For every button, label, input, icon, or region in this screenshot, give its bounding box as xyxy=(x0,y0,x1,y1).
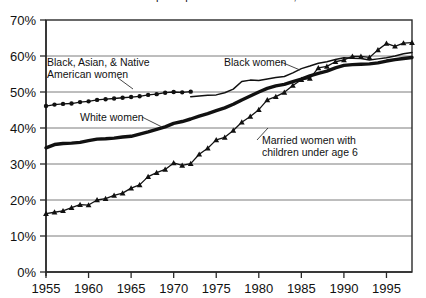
data-point xyxy=(146,93,150,97)
x-axis-tick-labels: 195519601965197019751980198519901995 xyxy=(32,281,401,296)
data-point xyxy=(86,99,90,103)
data-point xyxy=(129,95,133,99)
x-axis-label-1980: 1980 xyxy=(244,281,273,296)
y-axis-label-60%: 60% xyxy=(10,49,36,64)
chart-container: Labor force participation rates of women… xyxy=(0,0,426,298)
data-point xyxy=(78,100,82,104)
data-point xyxy=(171,90,175,94)
data-point xyxy=(61,102,65,106)
x-axis-label-1975: 1975 xyxy=(202,281,231,296)
annot-married-women-line1: Married women with xyxy=(262,134,356,146)
y-axis-label-0%: 0% xyxy=(17,265,36,280)
data-point xyxy=(52,102,56,106)
x-axis-label-1965: 1965 xyxy=(117,281,146,296)
data-point xyxy=(120,96,124,100)
data-point xyxy=(44,104,48,108)
data-point xyxy=(69,101,73,105)
annot-white-women-label: White women xyxy=(80,111,144,123)
x-axis-label-1970: 1970 xyxy=(159,281,188,296)
data-point xyxy=(180,90,184,94)
x-axis-label-1960: 1960 xyxy=(74,281,103,296)
data-point xyxy=(163,91,167,95)
y-axis-label-30%: 30% xyxy=(10,157,36,172)
data-point xyxy=(112,96,116,100)
data-point xyxy=(103,97,107,101)
annotation-white-women: White women xyxy=(80,111,144,123)
data-point xyxy=(154,92,158,96)
data-point xyxy=(137,94,141,98)
line-chart: Labor force participation rates of women… xyxy=(0,0,426,298)
y-axis-label-40%: 40% xyxy=(10,121,36,136)
x-axis-label-1955: 1955 xyxy=(32,281,61,296)
data-point xyxy=(95,98,99,102)
chart-background xyxy=(0,0,426,298)
annot-black-asian-native-line1: Black, Asian, & Native xyxy=(47,56,150,68)
x-axis-label-1985: 1985 xyxy=(287,281,316,296)
y-axis-label-70%: 70% xyxy=(10,13,36,28)
annotation-married-women: Married women with children under age 6 xyxy=(262,134,358,158)
x-axis-label-1995: 1995 xyxy=(372,281,401,296)
y-axis-label-50%: 50% xyxy=(10,85,36,100)
annotation-black-women: Black women xyxy=(224,56,287,68)
y-axis-label-20%: 20% xyxy=(10,193,36,208)
data-point xyxy=(189,89,193,93)
annot-married-women-line2: children under age 6 xyxy=(262,146,358,158)
x-axis-label-1990: 1990 xyxy=(329,281,358,296)
annot-black-asian-native-line2: American women xyxy=(47,68,128,80)
annot-black-women-label: Black women xyxy=(224,56,287,68)
chart-title: Labor force participation rates of women… xyxy=(97,0,354,2)
y-axis-label-10%: 10% xyxy=(10,229,36,244)
